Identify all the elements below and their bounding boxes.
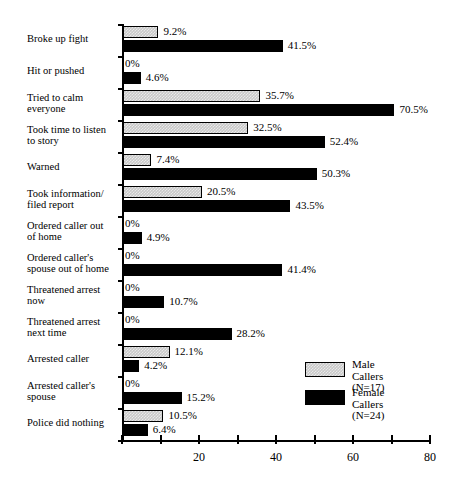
x-axis-tick (391, 435, 393, 444)
bar-male (123, 26, 158, 38)
bar-value-label-female: 43.5% (295, 199, 323, 211)
bar-male (123, 122, 248, 134)
x-axis-tick-label: 20 (193, 450, 205, 465)
category-label: Police did nothing (27, 417, 119, 429)
bar-female (123, 232, 142, 244)
bar-female (123, 296, 164, 308)
category-label: Ordered caller out of home (27, 220, 119, 243)
x-axis-tick (275, 435, 277, 444)
y-axis-tick (118, 280, 124, 282)
bar-value-label-male: 0% (125, 313, 140, 325)
bar-male (123, 186, 202, 198)
x-axis-tick (352, 435, 354, 444)
bar-female (123, 168, 317, 180)
bar-female (123, 328, 232, 340)
legend-label: Female Callers (N=24) (352, 387, 384, 422)
bar-female (123, 72, 141, 84)
bar-value-label-male: 0% (125, 281, 140, 293)
category-label: Took time to listen to story (27, 124, 119, 147)
bar-value-label-female: 10.7% (169, 295, 197, 307)
legend-swatch-male (305, 362, 345, 377)
x-axis-tick (314, 435, 316, 444)
bar-value-label-female: 52.4% (330, 135, 358, 147)
horizontal-bar-chart: Broke up fightHit or pushedTried to calm… (0, 0, 460, 484)
bar-value-label-male: 32.5% (253, 121, 281, 133)
legend-swatch-female (305, 390, 345, 405)
bar-female (123, 200, 290, 212)
category-label: Ordered caller's spouse out of home (27, 252, 119, 275)
bar-value-label-female: 4.2% (144, 359, 167, 371)
x-axis-tick-label: 40 (270, 450, 282, 465)
x-axis-tick (429, 435, 431, 444)
bar-value-label-male: 0% (125, 217, 140, 229)
category-label: Threatened arrest now (27, 284, 119, 307)
bar-male (123, 90, 260, 102)
bar-value-label-male: 20.5% (207, 185, 235, 197)
bar-male (123, 410, 163, 422)
bar-female (123, 392, 182, 404)
bar-value-label-female: 4.9% (147, 231, 170, 243)
bar-value-label-female: 70.5% (399, 103, 427, 115)
bar-value-label-male: 0% (125, 57, 140, 69)
bar-value-label-female: 41.5% (288, 39, 316, 51)
y-axis-tick (118, 216, 124, 218)
bar-value-label-male: 10.5% (168, 409, 196, 421)
y-axis-tick (118, 248, 124, 250)
bar-male (123, 154, 151, 166)
x-axis-tick (121, 435, 123, 444)
category-label: Broke up fight (27, 33, 119, 45)
category-label: Arrested caller's spouse (27, 380, 119, 403)
x-axis-tick (198, 435, 200, 444)
bar-female (123, 104, 394, 116)
category-label: Took information/ filed report (27, 188, 119, 211)
bar-value-label-male: 0% (125, 377, 140, 389)
category-label: Tried to calm everyone (27, 92, 119, 115)
bar-value-label-male: 7.4% (156, 153, 179, 165)
category-label: Arrested caller (27, 353, 119, 365)
bar-value-label-female: 6.4% (153, 423, 176, 435)
y-axis-tick (118, 312, 124, 314)
bar-value-label-female: 28.2% (237, 327, 265, 339)
bar-female (123, 360, 139, 372)
bar-value-label-male: 0% (125, 249, 140, 261)
bar-female (123, 136, 325, 148)
x-axis-tick (160, 435, 162, 444)
x-axis-tick-label: 60 (347, 450, 359, 465)
bar-female (123, 424, 148, 436)
category-label: Threatened arrest next time (27, 316, 119, 339)
x-axis-tick-label: 80 (424, 450, 436, 465)
bar-female (123, 264, 282, 276)
category-label: Hit or pushed (27, 65, 119, 77)
bar-value-label-female: 15.2% (187, 391, 215, 403)
bar-value-label-male: 9.2% (163, 25, 186, 37)
bar-value-label-female: 4.6% (146, 71, 169, 83)
y-axis-tick (118, 56, 124, 58)
category-label: Warned (27, 161, 119, 173)
x-axis-tick (237, 435, 239, 444)
bar-value-label-male: 12.1% (175, 345, 203, 357)
bar-female (123, 40, 283, 52)
bar-male (123, 346, 170, 358)
bar-value-label-female: 50.3% (322, 167, 350, 179)
bar-value-label-male: 35.7% (265, 89, 293, 101)
y-axis-tick (118, 376, 124, 378)
bar-value-label-female: 41.4% (287, 263, 315, 275)
